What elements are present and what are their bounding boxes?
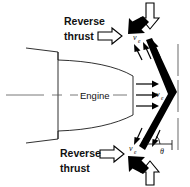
reverse-thrust-bottom-line1: Reverse: [60, 147, 101, 159]
inlet-lower-edge: [26, 139, 58, 143]
angle-arc: [157, 136, 161, 144]
inlet-upper-edge: [26, 48, 58, 52]
velocity-symbol-middle: v: [156, 90, 160, 99]
engine-label: Engine: [80, 90, 110, 101]
velocity-label-lower: v e: [129, 144, 137, 155]
velocity-symbol-upper: v: [133, 33, 137, 42]
velocity-subscript-middle: e: [161, 95, 164, 101]
hollow-arrow-right-bottom-icon: [100, 146, 124, 162]
thrust-reverser-diagram: Engine: [0, 0, 190, 187]
velocity-subscript-upper: e: [138, 38, 141, 44]
reverse-thrust-bottom-line2: thrust: [60, 162, 90, 174]
hollow-arrow-right-top-icon: [98, 28, 122, 44]
theta-label: θ: [160, 147, 164, 156]
velocity-label-middle: v e: [156, 90, 164, 101]
velocity-symbol-lower: v: [129, 144, 133, 153]
nacelle-upper-curve: [58, 60, 133, 76]
nacelle-lower-curve: [58, 115, 133, 131]
reverse-thrust-top-line1: Reverse: [64, 15, 105, 27]
reverse-thrust-top-line2: thrust: [64, 30, 94, 42]
velocity-label-upper: v e: [133, 33, 141, 44]
velocity-subscript-lower: e: [134, 149, 137, 155]
hollow-arrow-right-top-shape: [98, 28, 122, 44]
hollow-arrow-right-bottom-shape: [100, 146, 124, 162]
